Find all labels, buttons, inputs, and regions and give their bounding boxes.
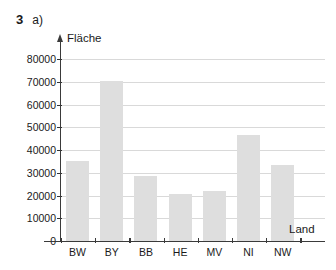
x-tick-label: NW (266, 247, 300, 258)
x-tick-mark (198, 238, 199, 243)
bar-chart: 0100002000030000400005000060000700008000… (0, 0, 336, 270)
bar (100, 81, 123, 241)
y-tick-label: 70000 (0, 77, 56, 88)
bar (169, 194, 192, 241)
y-axis-arrow-icon (57, 34, 63, 42)
y-tick-label: 40000 (0, 145, 56, 156)
x-tick-label: BB (129, 247, 163, 258)
x-tick-label: BY (95, 247, 129, 258)
x-tick-mark (61, 238, 62, 243)
y-tick-label: 50000 (0, 122, 56, 133)
x-tick-mark (129, 238, 130, 243)
bar (237, 135, 260, 241)
y-axis-line (60, 41, 61, 242)
x-tick-mark (300, 238, 301, 243)
x-tick-label: NI (232, 247, 266, 258)
x-tick-label: BW (61, 247, 95, 258)
bar (203, 191, 226, 241)
x-axis-title: Land (289, 224, 315, 236)
x-tick-mark (95, 238, 96, 243)
x-axis-line (44, 241, 325, 242)
gridline (61, 59, 325, 60)
bar (134, 176, 157, 241)
x-tick-mark (232, 238, 233, 243)
y-tick-label: 60000 (0, 100, 56, 111)
y-tick-label: 10000 (0, 213, 56, 224)
x-tick-mark (266, 238, 267, 243)
y-tick-label: 30000 (0, 168, 56, 179)
bar (66, 161, 89, 241)
x-tick-mark (164, 238, 165, 243)
y-tick-label: 80000 (0, 54, 56, 65)
y-tick-label: 20000 (0, 191, 56, 202)
figure: 3 a) 01000020000300004000050000600007000… (0, 0, 336, 270)
x-tick-label: MV (197, 247, 231, 258)
x-tick-label: HE (163, 247, 197, 258)
y-axis-title: Fläche (67, 33, 102, 45)
